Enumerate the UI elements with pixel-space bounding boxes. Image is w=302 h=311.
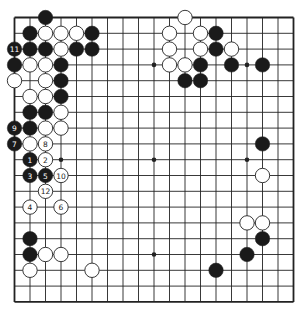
stone-circle xyxy=(7,74,21,88)
white-stone[interactable] xyxy=(23,137,37,151)
stone-circle xyxy=(23,247,37,261)
black-stone[interactable] xyxy=(54,58,68,72)
stone-circle xyxy=(38,89,52,103)
stone-circle xyxy=(209,26,223,40)
white-stone[interactable] xyxy=(54,247,68,261)
stone-circle xyxy=(255,58,269,72)
black-stone[interactable] xyxy=(85,42,99,56)
white-stone[interactable] xyxy=(38,89,52,103)
white-stone[interactable] xyxy=(54,26,68,40)
stone-circle xyxy=(38,74,52,88)
black-stone[interactable] xyxy=(23,121,37,135)
black-stone[interactable] xyxy=(224,58,238,72)
black-stone[interactable]: 3 xyxy=(23,168,37,182)
go-board[interactable]: 119781235101246 xyxy=(0,0,302,311)
black-stone[interactable] xyxy=(23,232,37,246)
star-point xyxy=(152,157,157,162)
stone-circle xyxy=(38,10,52,24)
white-stone[interactable] xyxy=(162,26,176,40)
stone-circle xyxy=(23,58,37,72)
black-stone[interactable] xyxy=(23,26,37,40)
black-stone[interactable] xyxy=(193,74,207,88)
stone-circle xyxy=(193,26,207,40)
white-stone[interactable] xyxy=(23,263,37,277)
black-stone[interactable]: 7 xyxy=(7,137,21,151)
white-stone[interactable] xyxy=(193,26,207,40)
black-stone[interactable] xyxy=(209,26,223,40)
black-stone[interactable] xyxy=(178,74,192,88)
white-stone[interactable] xyxy=(224,42,238,56)
star-point xyxy=(245,157,250,162)
white-stone[interactable] xyxy=(38,26,52,40)
stone-circle xyxy=(162,58,176,72)
white-stone[interactable]: 10 xyxy=(54,168,68,182)
white-stone[interactable] xyxy=(7,74,21,88)
black-stone[interactable] xyxy=(255,232,269,246)
white-stone[interactable]: 2 xyxy=(38,153,52,167)
white-stone[interactable] xyxy=(255,216,269,230)
white-stone[interactable] xyxy=(255,168,269,182)
stone-circle xyxy=(69,26,83,40)
move-number: 3 xyxy=(28,172,33,181)
stone-circle xyxy=(85,42,99,56)
white-stone[interactable] xyxy=(54,105,68,119)
white-stone[interactable] xyxy=(178,58,192,72)
black-stone[interactable] xyxy=(85,26,99,40)
stone-circle xyxy=(54,42,68,56)
stone-circle xyxy=(23,26,37,40)
white-stone[interactable] xyxy=(54,42,68,56)
black-stone[interactable]: 5 xyxy=(38,168,52,182)
stone-circle xyxy=(193,74,207,88)
black-stone[interactable] xyxy=(38,10,52,24)
white-stone[interactable] xyxy=(162,58,176,72)
white-stone[interactable] xyxy=(85,263,99,277)
white-stone[interactable] xyxy=(193,42,207,56)
white-stone[interactable] xyxy=(38,74,52,88)
white-stone[interactable] xyxy=(69,26,83,40)
black-stone[interactable] xyxy=(209,263,223,277)
white-stone[interactable] xyxy=(23,58,37,72)
white-stone[interactable] xyxy=(162,42,176,56)
stone-circle xyxy=(23,42,37,56)
white-stone[interactable] xyxy=(240,216,254,230)
black-stone[interactable]: 11 xyxy=(7,42,21,56)
stone-circle xyxy=(85,263,99,277)
black-stone[interactable] xyxy=(23,42,37,56)
white-stone[interactable] xyxy=(54,121,68,135)
black-stone[interactable] xyxy=(255,137,269,151)
black-stone[interactable] xyxy=(193,58,207,72)
star-point xyxy=(152,252,157,257)
stone-circle xyxy=(38,105,52,119)
white-stone[interactable] xyxy=(23,89,37,103)
black-stone[interactable]: 1 xyxy=(23,153,37,167)
black-stone[interactable] xyxy=(54,89,68,103)
stone-circle xyxy=(54,74,68,88)
white-stone[interactable]: 8 xyxy=(38,137,52,151)
white-stone[interactable] xyxy=(178,10,192,24)
black-stone[interactable] xyxy=(209,42,223,56)
move-number: 10 xyxy=(56,172,66,181)
white-stone[interactable]: 4 xyxy=(23,200,37,214)
stone-circle xyxy=(224,42,238,56)
stone-circle xyxy=(23,121,37,135)
black-stone[interactable] xyxy=(38,42,52,56)
black-stone[interactable] xyxy=(23,105,37,119)
black-stone[interactable] xyxy=(7,58,21,72)
black-stone[interactable] xyxy=(240,247,254,261)
stone-circle xyxy=(23,89,37,103)
black-stone[interactable] xyxy=(38,105,52,119)
white-stone[interactable] xyxy=(38,247,52,261)
black-stone[interactable]: 9 xyxy=(7,121,21,135)
stone-circle xyxy=(38,247,52,261)
stone-circle xyxy=(23,263,37,277)
white-stone[interactable]: 12 xyxy=(38,184,52,198)
black-stone[interactable] xyxy=(23,247,37,261)
black-stone[interactable] xyxy=(54,74,68,88)
star-point xyxy=(152,63,157,68)
stone-circle xyxy=(85,26,99,40)
black-stone[interactable] xyxy=(69,42,83,56)
white-stone[interactable] xyxy=(38,58,52,72)
black-stone[interactable] xyxy=(255,58,269,72)
white-stone[interactable]: 6 xyxy=(54,200,68,214)
white-stone[interactable] xyxy=(38,121,52,135)
